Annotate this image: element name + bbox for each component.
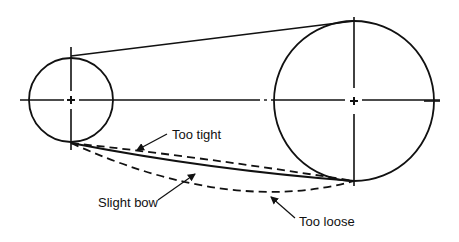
too-loose-arrow xyxy=(271,197,295,218)
too-tight-arrow xyxy=(137,134,167,150)
large-pulley xyxy=(274,17,440,186)
upper-belt-span xyxy=(71,21,354,56)
belt-slight-bow xyxy=(71,143,354,181)
large-pulley-center-mark xyxy=(350,17,440,186)
belt-too-tight xyxy=(71,143,354,181)
small-pulley-center-mark xyxy=(67,47,75,150)
small-pulley xyxy=(29,47,113,150)
slight-bow-arrow xyxy=(158,174,195,200)
too-loose-label: Too loose xyxy=(299,214,355,229)
belt-tension-diagram: Too tight Slight bow Too loose xyxy=(0,0,459,242)
slight-bow-label: Slight bow xyxy=(98,195,159,210)
too-tight-label: Too tight xyxy=(172,127,222,142)
